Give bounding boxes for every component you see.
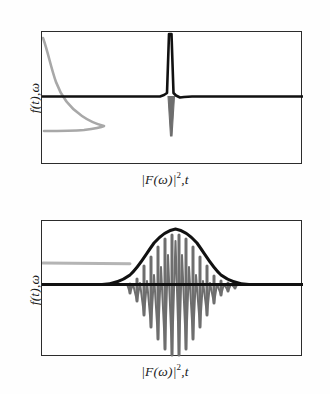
plot-area-top: [41, 31, 302, 164]
signal-short-pulse-curve: [42, 34, 303, 98]
x-axis-label-bottom-tail: ,t: [181, 364, 189, 379]
spectrum-narrow-curve: [43, 263, 130, 264]
x-axis-label-top-text: |F(ω)|: [141, 172, 176, 187]
figure-root: f(t),ω |F(ω)|2,t f(t),ω: [0, 0, 330, 394]
panel-long-wave-packet: f(t),ω: [0, 194, 330, 394]
x-axis-label-top: |F(ω)|2,t: [0, 170, 330, 188]
x-axis-label-bottom-text: |F(ω)|: [141, 364, 176, 379]
plot-curves-bottom: [42, 221, 303, 357]
x-axis-label-bottom: |F(ω)|2,t: [0, 362, 330, 380]
plot-curves-top: [42, 32, 303, 165]
oscillation-undershoot-curve: [168, 96, 175, 136]
x-axis-label-top-tail: ,t: [181, 172, 189, 187]
panel-short-pulse: f(t),ω |F(ω)|2,t: [0, 0, 330, 200]
spectrum-broad-curve: [43, 38, 104, 131]
plot-area-bottom: [41, 220, 302, 356]
